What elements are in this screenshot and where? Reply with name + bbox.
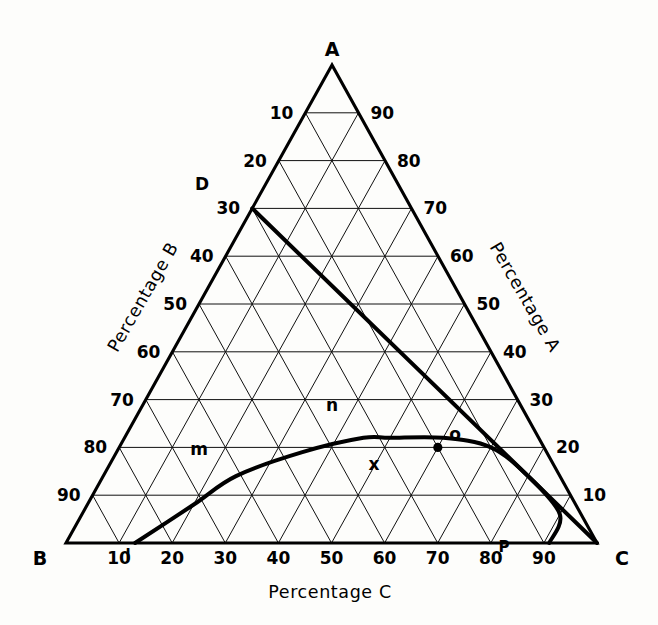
axis-title-bottom: Percentage C [268,582,391,602]
ternary-plot-svg: 1020304050607080909080706050403020101020… [0,0,658,625]
data-markers [433,443,442,452]
tick-bottom-60: 60 [373,548,397,568]
tick-left-40: 40 [190,246,214,266]
grid-line [438,400,518,543]
tick-right-90: 90 [371,103,395,123]
grid-lines [93,113,571,543]
tick-left-80: 80 [84,437,108,457]
tick-right-80: 80 [397,151,421,171]
grid-line [252,208,438,543]
tick-right-60: 60 [450,246,474,266]
annotation-label-x: x [369,454,380,474]
grid-line [146,400,226,543]
tick-labels: 1020304050607080909080706050403020101020… [57,103,606,568]
point-x-marker[interactable] [433,443,442,452]
tick-right-10: 10 [583,485,607,505]
annotation-label-l: l [125,546,130,564]
annotation-label-d: D [195,174,209,194]
grid-line [199,304,332,543]
tick-left-10: 10 [270,103,294,123]
tick-left-70: 70 [110,390,134,410]
grid-line [305,113,544,543]
tick-right-30: 30 [530,390,554,410]
tick-left-60: 60 [137,342,161,362]
ternary-diagram-figure: 1020304050607080909080706050403020101020… [0,0,658,625]
tick-right-20: 20 [556,437,580,457]
vertex-label-a: A [325,38,340,60]
tick-right-50: 50 [477,294,501,314]
vertex-label-b: B [33,547,47,569]
tick-right-40: 40 [503,342,527,362]
tick-bottom-20: 20 [160,548,184,568]
annotation-label-n: n [326,395,338,415]
tick-bottom-90: 90 [532,548,556,568]
annotation-label-p: P [499,538,510,556]
vertex-label-c: C [615,547,629,569]
tick-left-30: 30 [217,198,241,218]
grid-line [225,208,411,543]
tick-bottom-40: 40 [267,548,291,568]
tick-bottom-30: 30 [213,548,237,568]
tick-right-70: 70 [424,198,448,218]
annotation-label-m: m [190,439,208,459]
tick-left-50: 50 [163,294,187,314]
tick-bottom-50: 50 [320,548,344,568]
tick-bottom-70: 70 [426,548,450,568]
annotation-label-o: o [449,424,461,444]
tick-left-90: 90 [57,485,81,505]
grid-line [332,304,465,543]
tick-left-20: 20 [243,151,267,171]
grid-line [93,495,120,543]
grid-line [119,113,358,543]
